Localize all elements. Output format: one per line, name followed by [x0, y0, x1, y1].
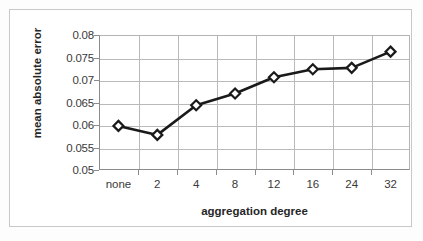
y-axis-tick-mark: [94, 148, 99, 149]
x-axis-title: aggregation degree: [99, 205, 410, 217]
horizontal-gridline: [100, 59, 409, 60]
y-axis-tick-label: 0.05: [72, 164, 94, 176]
y-axis-tick-mark: [94, 103, 99, 104]
horizontal-gridline: [100, 149, 409, 150]
x-axis-tick-mark: [177, 170, 178, 175]
x-axis-tick-label: 32: [384, 178, 397, 190]
x-axis-tick-mark: [293, 170, 294, 175]
horizontal-gridline: [100, 81, 409, 82]
horizontal-gridline: [100, 104, 409, 105]
x-axis-tick-mark: [255, 170, 256, 175]
x-axis-tick-label: 16: [306, 178, 319, 190]
x-axis-tick-label: 8: [232, 178, 238, 190]
y-axis-tick-label: 0.08: [72, 29, 94, 41]
x-axis-tick-label: 4: [193, 178, 199, 190]
x-axis-tick-mark: [332, 170, 333, 175]
y-axis-tick-mark: [94, 170, 99, 171]
vertical-gridline: [178, 36, 179, 169]
chart-figure: 0.050.0550.060.0650.070.0750.08 none2481…: [0, 0, 423, 241]
y-axis-tick-label: 0.06: [72, 119, 94, 131]
y-axis-tick-mark: [94, 58, 99, 59]
vertical-gridline: [294, 36, 295, 169]
x-axis-tick-label: 24: [345, 178, 358, 190]
y-axis-tick-mark: [94, 80, 99, 81]
vertical-gridline: [217, 36, 218, 169]
vertical-gridline: [256, 36, 257, 169]
x-axis-tick-mark: [371, 170, 372, 175]
y-axis-tick-label: 0.075: [66, 52, 94, 64]
y-axis-tick-labels: 0.050.0550.060.0650.070.0750.08: [48, 35, 94, 170]
x-axis-tick-label: 2: [154, 178, 160, 190]
x-axis-tick-label: 12: [268, 178, 281, 190]
y-axis-tick-label: 0.07: [72, 74, 94, 86]
chart-frame: 0.050.0550.060.0650.070.0750.08 none2481…: [9, 9, 412, 227]
horizontal-gridline: [100, 126, 409, 127]
y-axis-tick-label: 0.065: [66, 97, 94, 109]
plot-area: [99, 35, 410, 170]
vertical-gridline: [372, 36, 373, 169]
y-axis-tick-mark: [94, 125, 99, 126]
y-axis-title: mean absolute error: [31, 8, 43, 158]
x-axis-tick-mark: [216, 170, 217, 175]
x-axis-tick-labels: none24812162432: [99, 178, 410, 194]
vertical-gridline: [139, 36, 140, 169]
vertical-gridline: [333, 36, 334, 169]
y-axis-tick-mark: [94, 35, 99, 36]
x-axis-tick-mark: [138, 170, 139, 175]
y-axis-tick-label: 0.055: [66, 142, 94, 154]
x-axis-tick-label: none: [106, 178, 132, 190]
